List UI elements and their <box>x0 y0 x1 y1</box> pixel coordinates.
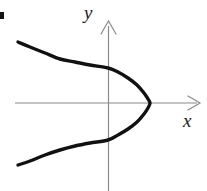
y-axis-label: y <box>84 3 92 22</box>
axes-group <box>15 21 200 191</box>
x-axis-label: x <box>183 111 191 130</box>
figure-canvas: y x <box>0 0 207 191</box>
parabola-plot <box>0 0 207 191</box>
